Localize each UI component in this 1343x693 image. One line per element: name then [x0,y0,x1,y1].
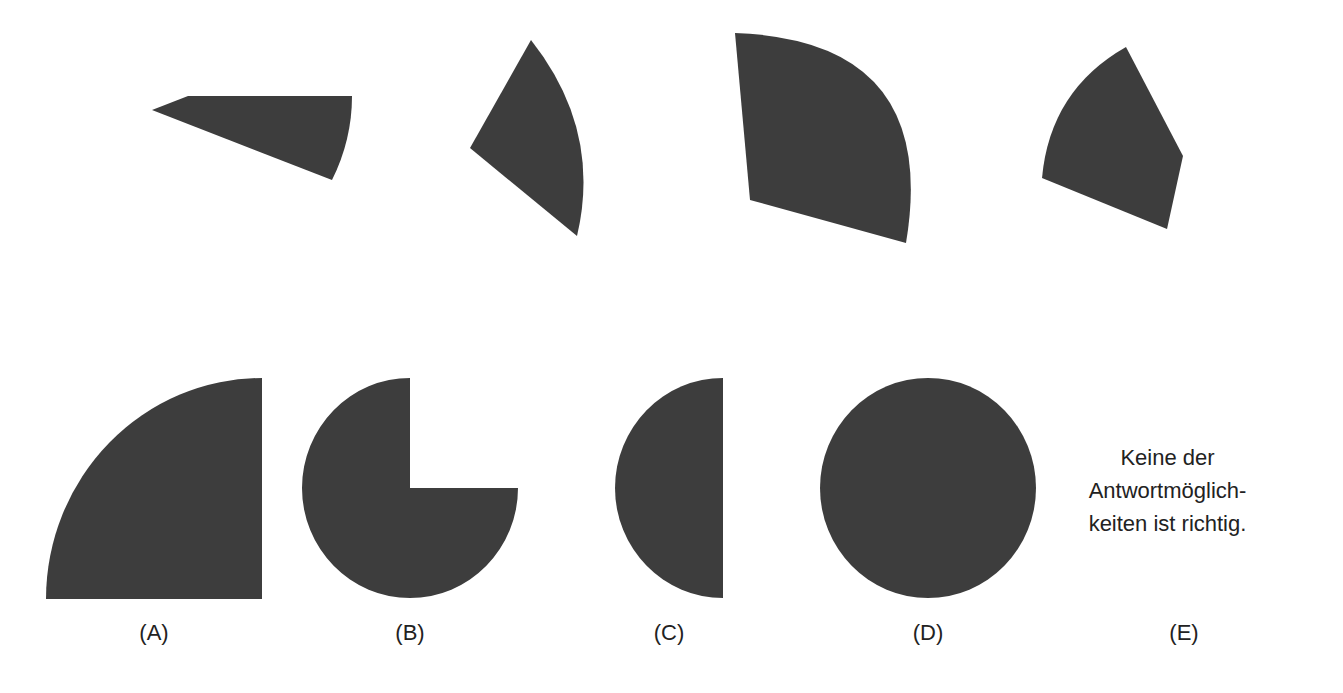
label-e: (E) [1144,620,1224,646]
option-a-quarter-circle[interactable] [46,378,262,599]
piece-3 [735,33,911,243]
piece-2 [470,40,584,236]
label-d: (D) [888,620,968,646]
label-a: (A) [114,620,194,646]
label-b: (B) [370,620,450,646]
option-e-line-2: Antwortmöglich- [1060,474,1275,507]
piece-4 [1042,47,1183,229]
figure-canvas [0,0,1343,693]
option-e-line-3: keiten ist richtig. [1060,507,1275,540]
label-c: (C) [629,620,709,646]
option-d-full-circle[interactable] [820,378,1036,598]
piece-1 [152,96,352,180]
option-e-text[interactable]: Keine der Antwortmöglich- keiten ist ric… [1060,441,1275,540]
option-b-three-quarter-circle[interactable] [302,378,518,598]
option-e-line-1: Keine der [1060,441,1275,474]
option-c-half-circle[interactable] [615,378,723,598]
